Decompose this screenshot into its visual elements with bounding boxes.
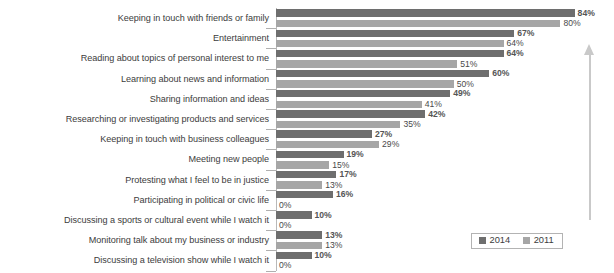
bar-line: 42% [276, 109, 614, 118]
bar-value-label: 16% [333, 190, 353, 199]
bar-line: 29% [276, 140, 614, 149]
bar-line: 67% [276, 29, 614, 38]
bar-value-label: 0% [276, 221, 291, 230]
bar-value-label: 29% [379, 140, 399, 149]
category-label: Meeting new people [0, 149, 274, 169]
bar-value-label: 13% [322, 181, 342, 190]
axis-tick [266, 149, 276, 150]
bar-line: 0% [276, 261, 614, 270]
axis-tick [266, 89, 276, 90]
category-label: Researching or investigating products an… [0, 109, 274, 129]
bar-line: 49% [276, 89, 614, 98]
bar-group: 84%80% [274, 8, 614, 28]
category-label: Sharing information and ideas [0, 89, 274, 109]
bar-line: 50% [276, 79, 614, 88]
chart-row: Reading about topics of personal interes… [0, 48, 614, 68]
bar-line: 35% [276, 120, 614, 129]
bar-line: 13% [276, 230, 614, 239]
bar-2014[interactable] [276, 130, 372, 137]
chart-row: Discussing a television show while I wat… [0, 250, 614, 270]
bar-group: 27%29% [274, 129, 614, 149]
axis-tick [266, 69, 276, 70]
bar-line: 0% [276, 201, 614, 210]
chart-plot-area: Keeping in touch with friends or family8… [0, 8, 614, 270]
bar-value-label: 27% [372, 130, 392, 139]
chart-row: Discussing a sports or cultural event wh… [0, 210, 614, 230]
axis-tick [266, 129, 276, 130]
bar-2014[interactable] [276, 171, 336, 178]
bar-value-label: 49% [450, 89, 470, 98]
bar-value-label: 19% [344, 150, 364, 159]
axis-tick [266, 109, 276, 110]
axis-tick [266, 230, 276, 231]
axis-tick [266, 190, 276, 191]
bar-2011[interactable] [276, 40, 504, 47]
category-label: Entertainment [0, 28, 274, 48]
legend-item-2011[interactable]: 2011 [523, 236, 554, 245]
bar-line: 41% [276, 100, 614, 109]
bar-group: 13%13% [274, 230, 614, 250]
bar-value-label: 13% [322, 241, 342, 250]
bar-2014[interactable] [276, 9, 575, 16]
bar-line: 10% [276, 251, 614, 260]
bar-2014[interactable] [276, 30, 514, 37]
bar-2014[interactable] [276, 70, 489, 77]
legend-swatch-2014 [479, 237, 486, 244]
bar-2014[interactable] [276, 191, 333, 198]
bar-2011[interactable] [276, 242, 322, 249]
bar-value-label: 10% [312, 251, 332, 260]
bar-line: 64% [276, 39, 614, 48]
bar-value-label: 42% [425, 110, 445, 119]
chart-row: Researching or investigating products an… [0, 109, 614, 129]
bar-2011[interactable] [276, 101, 422, 108]
bar-value-label: 51% [457, 60, 477, 69]
bar-2014[interactable] [276, 90, 450, 97]
bar-value-label: 10% [312, 211, 332, 220]
bar-line: 10% [276, 210, 614, 219]
bar-2011[interactable] [276, 181, 322, 188]
axis-tick [266, 250, 276, 251]
bar-line: 16% [276, 190, 614, 199]
bar-2014[interactable] [276, 50, 504, 57]
category-label: Participating in political or civic life [0, 190, 274, 210]
bar-2011[interactable] [276, 20, 560, 27]
bar-line: 64% [276, 49, 614, 58]
bar-line: 15% [276, 160, 614, 169]
bar-2014[interactable] [276, 151, 344, 158]
chart-row: Keeping in touch with friends or family8… [0, 8, 614, 28]
bar-2011[interactable] [276, 141, 379, 148]
bar-2011[interactable] [276, 80, 454, 87]
bar-line: 60% [276, 69, 614, 78]
bar-2014[interactable] [276, 231, 322, 238]
bar-line: 13% [276, 180, 614, 189]
bar-value-label: 50% [454, 80, 474, 89]
bar-2011[interactable] [276, 121, 400, 128]
horizontal-bar-chart: Keeping in touch with friends or family8… [0, 0, 614, 273]
bar-group: 10%0% [274, 250, 614, 270]
bar-value-label: 13% [322, 231, 342, 240]
bar-value-label: 17% [336, 170, 356, 179]
bar-group: 10%0% [274, 210, 614, 230]
bar-2014[interactable] [276, 252, 312, 259]
legend-swatch-2011 [523, 237, 530, 244]
bar-2011[interactable] [276, 161, 329, 168]
category-label: Discussing a television show while I wat… [0, 250, 274, 270]
bar-2014[interactable] [276, 211, 312, 218]
axis-tick [266, 271, 276, 272]
bar-line: 27% [276, 130, 614, 139]
bar-2011[interactable] [276, 60, 457, 67]
axis-tick [266, 28, 276, 29]
bar-group: 64%51% [274, 48, 614, 68]
chart-row: Entertainment67%64% [0, 28, 614, 48]
bar-value-label: 64% [504, 39, 524, 48]
bar-value-label: 64% [504, 49, 524, 58]
legend-item-2014[interactable]: 2014 [479, 236, 510, 245]
bar-value-label: 41% [422, 100, 442, 109]
legend-label-2011: 2011 [534, 236, 554, 245]
bar-line: 0% [276, 221, 614, 230]
category-label: Discussing a sports or cultural event wh… [0, 210, 274, 230]
category-label: Learning about news and information [0, 69, 274, 89]
bar-line: 84% [276, 8, 614, 17]
bar-value-label: 0% [276, 201, 291, 210]
bar-2014[interactable] [276, 110, 425, 117]
